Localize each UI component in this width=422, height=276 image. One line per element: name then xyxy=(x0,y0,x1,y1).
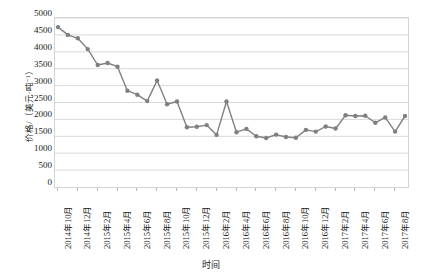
y-axis-tick-label: 4500 xyxy=(18,25,52,35)
x-axis-tick-label: 2016年12月 xyxy=(318,206,330,250)
data-point xyxy=(403,114,407,118)
x-axis-tick-label: 2017年2月 xyxy=(338,210,350,249)
x-axis-tick-label: 2016年4月 xyxy=(239,210,251,249)
x-axis-tick-label: 2017年8月 xyxy=(398,210,410,249)
data-point xyxy=(343,113,347,117)
data-point xyxy=(145,99,149,103)
data-point xyxy=(333,126,337,130)
y-axis-tick-label: 2500 xyxy=(18,93,52,103)
x-axis-tick-label: 2016年8月 xyxy=(279,210,291,249)
data-point xyxy=(66,33,70,37)
x-axis-tick-label: 2015年8月 xyxy=(160,210,172,249)
x-axis-tick-label: 2014年12月 xyxy=(80,206,92,250)
series-line-svg xyxy=(55,18,408,187)
x-axis-tick-label: 2015年4月 xyxy=(120,210,132,249)
y-axis-tick-label: 4000 xyxy=(18,42,52,52)
x-axis-tick-label: 2016年10月 xyxy=(298,206,310,250)
data-point xyxy=(264,136,268,140)
data-point xyxy=(373,121,377,125)
x-axis-tick-label: 2016年6月 xyxy=(259,210,271,249)
x-axis-tick-label: 2016年2月 xyxy=(219,210,231,249)
data-point xyxy=(105,61,109,65)
x-axis-title: 时间 xyxy=(0,258,422,271)
data-point xyxy=(234,130,238,134)
data-point xyxy=(314,129,318,133)
y-axis-tick-label: 1000 xyxy=(18,143,52,153)
data-point xyxy=(254,134,258,138)
data-point xyxy=(393,129,397,133)
data-point xyxy=(205,123,209,127)
data-point xyxy=(155,78,159,82)
x-axis-tick-label: 2015年2月 xyxy=(100,210,112,249)
data-point xyxy=(115,65,119,69)
y-axis-tick-label: 3000 xyxy=(18,76,52,86)
data-point xyxy=(125,89,129,93)
x-axis-tick-labels: 2014年10月2014年12月2015年2月2015年4月2015年6月201… xyxy=(54,189,409,251)
data-point xyxy=(214,133,218,137)
y-axis-tick-label: 1500 xyxy=(18,126,52,136)
x-axis-tick-label: 2015年6月 xyxy=(140,210,152,249)
y-axis-tick-labels: 0500100015002000250030003500400045005000 xyxy=(18,12,52,192)
data-point xyxy=(76,36,80,40)
data-point xyxy=(324,124,328,128)
line-chart: 价格/（美元·吨⁻¹） 0500100015002000250030003500… xyxy=(0,0,422,276)
data-point xyxy=(56,25,60,29)
y-axis-tick-label: 2000 xyxy=(18,109,52,119)
y-axis-tick-label: 5000 xyxy=(18,8,52,18)
data-point xyxy=(363,114,367,118)
x-axis-tick-label: 2015年12月 xyxy=(199,206,211,250)
data-point xyxy=(135,93,139,97)
x-axis-tick-label: 2017年6月 xyxy=(378,210,390,249)
data-point xyxy=(383,115,387,119)
data-point xyxy=(244,127,248,131)
data-point xyxy=(96,63,100,67)
data-point xyxy=(284,135,288,139)
data-point xyxy=(294,136,298,140)
y-axis-tick-label: 0 xyxy=(18,177,52,187)
y-axis-tick-label: 500 xyxy=(18,160,52,170)
x-axis-tick-label: 2015年10月 xyxy=(179,206,191,250)
data-point xyxy=(274,132,278,136)
series-line xyxy=(58,27,405,138)
data-point xyxy=(175,99,179,103)
data-point xyxy=(353,114,357,118)
x-axis-tick-label: 2017年4月 xyxy=(358,210,370,249)
data-point xyxy=(86,47,90,51)
data-point xyxy=(185,125,189,129)
data-point xyxy=(304,128,308,132)
data-point xyxy=(195,125,199,129)
y-axis-tick-label: 3500 xyxy=(18,59,52,69)
data-point xyxy=(165,102,169,106)
x-axis-tick-label: 2014年10月 xyxy=(61,206,73,250)
data-point xyxy=(224,99,228,103)
plot-area xyxy=(54,17,409,188)
